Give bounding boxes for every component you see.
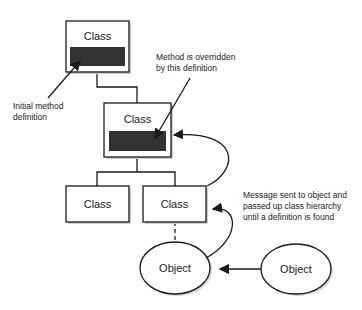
object-ellipse-2: Object <box>261 244 333 296</box>
class-label: Class <box>84 30 112 42</box>
object-ellipse-1: Object <box>140 242 212 296</box>
object-label: Object <box>159 262 191 274</box>
lookup-arrow-class-to-superclass <box>174 135 229 186</box>
class-label: Class <box>84 198 112 210</box>
class-box-mid: Class <box>104 103 173 159</box>
annotation-message: Message sent to object and passed up cla… <box>243 190 347 222</box>
svg-text:passed up class hierarchy: passed up class hierarchy <box>243 201 342 211</box>
svg-text:until a definition is found: until a definition is found <box>243 212 334 222</box>
annotation-override: Method is overridden by this definition <box>156 52 236 73</box>
svg-text:Method is overridden: Method is overridden <box>156 52 236 62</box>
svg-text:definition: definition <box>13 112 47 122</box>
class-label: Class <box>124 113 152 125</box>
class-box-right: Class <box>143 186 208 224</box>
lookup-arrow-object-to-class <box>206 209 232 258</box>
arrows <box>48 61 261 269</box>
class-label: Class <box>161 198 189 210</box>
class-hierarchy-diagram: Class Class Class Class Object Object <box>0 0 362 310</box>
svg-text:Initial method: Initial method <box>13 101 64 111</box>
initial-method-pointer <box>48 61 80 98</box>
svg-text:Message sent to object and: Message sent to object and <box>243 190 347 200</box>
class-box-left: Class <box>66 186 131 224</box>
object-label: Object <box>280 263 312 275</box>
annotation-initial: Initial method definition <box>13 101 64 122</box>
svg-text:by this definition: by this definition <box>156 63 217 73</box>
